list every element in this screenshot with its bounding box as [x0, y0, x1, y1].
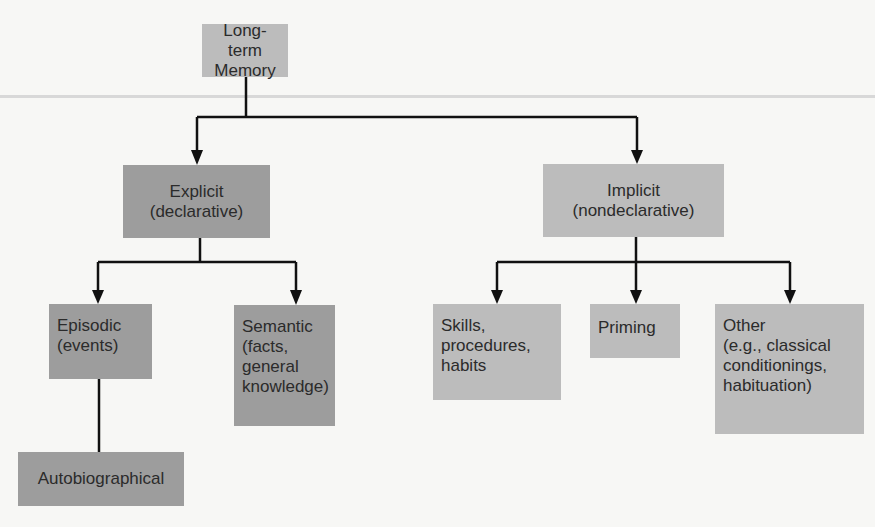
- node-label: Skills, procedures, habits: [441, 316, 553, 376]
- node-other: Other (e.g., classical conditionings, ha…: [715, 304, 864, 434]
- node-episodic: Episodic (events): [49, 304, 152, 379]
- node-autobiographical: Autobiographical: [18, 452, 184, 506]
- node-label: Priming: [598, 318, 672, 338]
- node-skills-procedures-habits: Skills, procedures, habits: [433, 304, 561, 400]
- node-label: Episodic (events): [57, 316, 144, 356]
- node-priming: Priming: [590, 304, 680, 358]
- node-label: Explicit (declarative): [150, 182, 244, 222]
- node-label: Other (e.g., classical conditionings, ha…: [723, 316, 856, 396]
- node-explicit: Explicit (declarative): [123, 165, 270, 238]
- node-label: Autobiographical: [38, 469, 165, 489]
- node-label: Implicit (nondeclarative): [573, 181, 695, 221]
- connector-lines: [0, 0, 875, 527]
- node-implicit: Implicit (nondeclarative): [543, 164, 724, 237]
- node-label: Long-term Memory: [210, 21, 280, 81]
- node-long-term-memory: Long-term Memory: [202, 24, 288, 77]
- node-semantic: Semantic (facts, general knowledge): [234, 305, 335, 426]
- node-label: Semantic (facts, general knowledge): [242, 317, 327, 397]
